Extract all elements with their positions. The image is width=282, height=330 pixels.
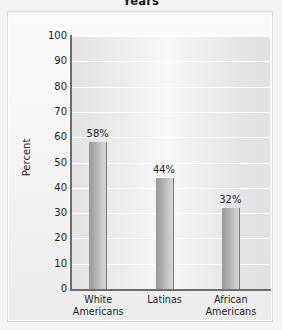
chart-panel: Percent 1009080706050403020100 58%44%32%… [7,11,273,322]
gridline [71,61,270,62]
y-axis-tick-label: 60 [34,132,67,142]
x-axis-tick-label-line: Americans [191,306,271,318]
y-axis-tick-label: 70 [34,107,67,117]
x-axis-tick-label-line: African [191,294,271,306]
y-axis-label: Percent [21,128,32,188]
x-axis-tick-labels: WhiteAmericansLatinasAfricanAmericans [71,294,270,330]
y-axis-tick-label: 90 [34,56,67,66]
y-axis-tick-label: 40 [34,183,67,193]
gridline [71,87,270,88]
y-axis-tick-label: 10 [34,259,67,269]
plot-area: 58%44%32% [71,36,270,289]
bar: 58% [89,142,107,289]
x-axis-line [70,289,271,291]
gridline [71,112,270,113]
bar-value-label: 58% [87,128,109,139]
y-axis-tick-label: 0 [34,284,67,294]
bar-value-label: 32% [219,194,241,205]
bar: 44% [156,178,174,289]
y-axis-tick-label: 20 [34,233,67,243]
gridline [71,36,270,37]
y-axis-tick-label: 100 [34,31,67,41]
chart-figure: Years Percent 1009080706050403020100 58%… [0,0,282,330]
x-axis-tick-label-line: Americans [58,306,138,318]
y-axis-line [70,35,72,290]
y-axis-tick-label: 50 [34,158,67,168]
y-axis-tick-labels: 1009080706050403020100 [34,12,67,323]
y-axis-tick-label: 80 [34,82,67,92]
x-axis-tick-label: AfricanAmericans [191,294,271,317]
y-axis-tick-label: 30 [34,208,67,218]
chart-title: Years [0,0,282,8]
bar-value-label: 44% [153,164,175,175]
bar: 32% [222,208,240,289]
